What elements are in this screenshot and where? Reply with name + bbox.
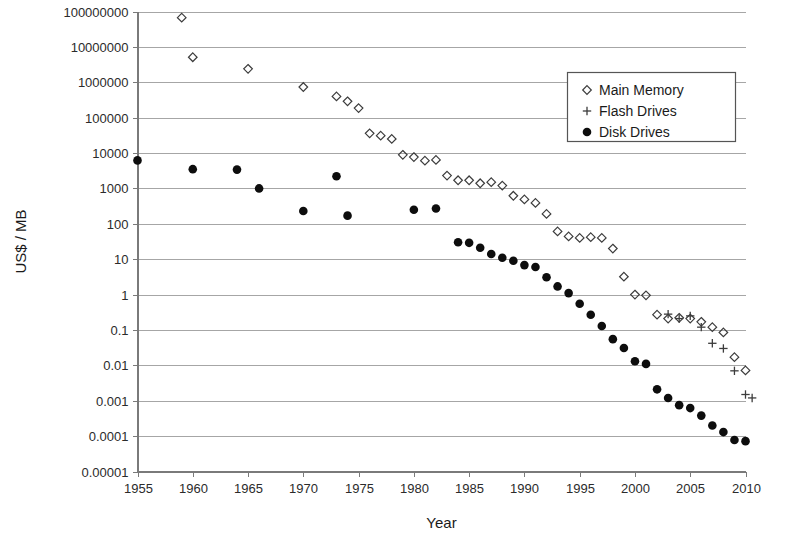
data-point (343, 211, 352, 220)
x-tick-label: 1965 (234, 481, 263, 496)
legend-label: Main Memory (599, 82, 684, 98)
x-tick-label: 1985 (455, 481, 484, 496)
y-tick-label: 100 (107, 217, 129, 232)
y-tick-label: 10000000 (71, 40, 129, 55)
data-point (233, 165, 242, 174)
x-tick-label: 1980 (400, 481, 429, 496)
x-tick-label: 1955 (124, 481, 153, 496)
data-point (719, 428, 728, 437)
data-point (697, 411, 706, 420)
data-point (708, 421, 717, 430)
legend-label: Disk Drives (599, 124, 670, 140)
data-point (575, 299, 584, 308)
y-tick-label: 1000 (100, 181, 129, 196)
data-point (586, 310, 595, 319)
x-tick-label: 2000 (621, 481, 650, 496)
y-tick-label: 10 (114, 252, 128, 267)
data-point (642, 360, 651, 369)
data-point (299, 207, 308, 216)
price-per-megabyte-chart: 0.000010.00010.0010.010.1110100100010000… (0, 0, 799, 554)
data-point (664, 394, 673, 403)
data-point (133, 156, 142, 165)
x-tick-label: 1990 (510, 481, 539, 496)
data-point (498, 253, 507, 262)
data-point (741, 437, 750, 446)
x-tick-label: 1970 (289, 481, 318, 496)
y-tick-label: 1000000 (78, 75, 129, 90)
data-point (255, 184, 264, 193)
data-point (553, 282, 562, 291)
data-point (564, 289, 573, 298)
data-point (597, 322, 606, 331)
data-point (531, 263, 540, 272)
x-tick-label: 1995 (566, 481, 595, 496)
data-point (686, 404, 695, 413)
y-tick-label: 10000 (92, 146, 128, 161)
x-tick-label: 1960 (179, 481, 208, 496)
data-point (432, 204, 441, 213)
data-point (730, 436, 739, 445)
legend-marker-circle-icon (583, 128, 592, 137)
legend-label: Flash Drives (599, 103, 677, 119)
data-point (520, 261, 529, 270)
data-point (509, 257, 518, 266)
data-point (653, 385, 662, 394)
data-point (542, 273, 551, 282)
chart-canvas: 0.000010.00010.0010.010.1110100100010000… (0, 0, 799, 554)
y-tick-label: 1 (121, 288, 128, 303)
y-axis-title: US$ / MB (12, 209, 29, 273)
data-point (631, 357, 640, 366)
y-tick-label: 0.1 (110, 323, 128, 338)
data-point (609, 335, 618, 344)
y-tick-label: 100000 (85, 111, 128, 126)
chart-legend: Main MemoryFlash DrivesDisk Drives (568, 73, 736, 142)
x-tick-label: 2010 (732, 481, 761, 496)
data-point (410, 205, 419, 214)
y-tick-label: 100000000 (63, 5, 128, 20)
x-axis-title: Year (426, 514, 456, 531)
x-tick-label: 1975 (345, 481, 374, 496)
data-point (487, 250, 496, 259)
x-tick-label: 2005 (676, 481, 705, 496)
y-tick-label: 0.0001 (89, 429, 129, 444)
data-point (476, 243, 485, 252)
y-tick-label: 0.001 (96, 394, 129, 409)
data-point (332, 172, 341, 181)
y-tick-label: 0.01 (103, 358, 128, 373)
y-tick-label: 0.00001 (82, 465, 129, 480)
data-point (620, 344, 629, 353)
data-point (675, 401, 684, 410)
data-point (188, 165, 197, 174)
data-point (454, 238, 463, 247)
data-point (465, 239, 474, 248)
